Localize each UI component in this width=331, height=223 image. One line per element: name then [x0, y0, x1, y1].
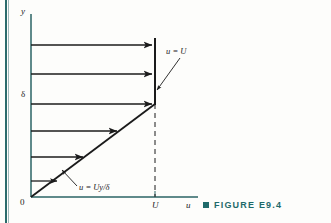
origin-label: 0 [20, 198, 25, 207]
delta-tick-label: δ [21, 90, 25, 99]
freestream-annotation-label: u = U [166, 47, 186, 56]
velocity-profile-plot [0, 0, 331, 223]
profile-annotation-label: u = Uy/δ [79, 183, 109, 192]
figure-caption: FIGURE E9.4 [203, 200, 282, 210]
figure-container: y δ 0 U u u = U u = Uy/δ FIGURE E9.4 [0, 0, 331, 223]
y-axis-label: y [21, 7, 25, 16]
x-axis-label: u [186, 201, 191, 210]
caption-bullet-icon [203, 202, 209, 208]
freestream-leader-line [157, 58, 180, 90]
x-tick-label-U: U [152, 201, 159, 210]
figure-caption-text: FIGURE E9.4 [214, 200, 282, 210]
profile-leader-line [62, 170, 77, 186]
